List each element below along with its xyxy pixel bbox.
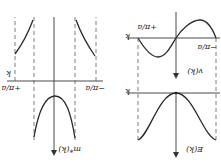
tick-neg-label: −π/a [85,84,105,93]
mass-branch-outer [76,20,95,56]
k-label: k [125,32,130,41]
e-axis-label: E(k) [186,145,204,154]
k-label: k [125,87,130,96]
v-axis-label: v(k) [187,67,203,76]
origin-dot [175,92,178,95]
mass-branch-outer [15,20,33,54]
tick-neg-label: −π/a [197,43,217,52]
energy-curve [138,93,216,140]
tick-pos-label: +π/a [1,84,21,93]
band-structure-diagram: +π/a −π/a k m*(k) +π/a −π/a k v(k) [0,0,221,166]
k-label: k [6,69,11,78]
velocity-panel: +π/a −π/a k v(k) [125,12,220,76]
effective-mass-panel: +π/a −π/a k m*(k) [1,17,105,154]
tick-pos-label: +π/a [137,23,157,32]
m-axis-label: m*(k) [58,145,81,154]
energy-panel: k E(k) [125,38,220,155]
